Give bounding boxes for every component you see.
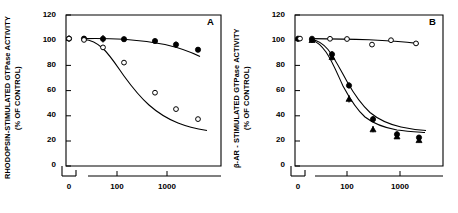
panel-b-filled-triangle-curve bbox=[312, 40, 425, 132]
panel-b-plot bbox=[229, 0, 458, 213]
figure-container: RHODOPSIN-STIMULATED GTPase ACTIVITY (% … bbox=[0, 0, 458, 213]
panel-b: β-AR - STIMULATED GTPase ACTIVITY (% OF … bbox=[229, 0, 458, 213]
panel-a-x-axis-broken bbox=[62, 166, 221, 176]
panel-b-filled-triangle-points bbox=[309, 37, 422, 142]
panel-a-frame bbox=[66, 15, 221, 166]
panel-a-zero-dose-points bbox=[66, 36, 71, 42]
panel-b-filled-circle-curve bbox=[312, 40, 426, 131]
panel-a-plot bbox=[0, 0, 229, 213]
panel-a: RHODOPSIN-STIMULATED GTPase ACTIVITY (% … bbox=[0, 0, 229, 213]
panel-a-open-circle-curve bbox=[84, 40, 207, 131]
panel-b-zero-dose-points bbox=[295, 36, 302, 42]
panel-b-frame bbox=[295, 15, 443, 166]
panel-a-open-circle-points bbox=[82, 38, 201, 122]
panel-b-x-axis-broken bbox=[291, 166, 443, 176]
